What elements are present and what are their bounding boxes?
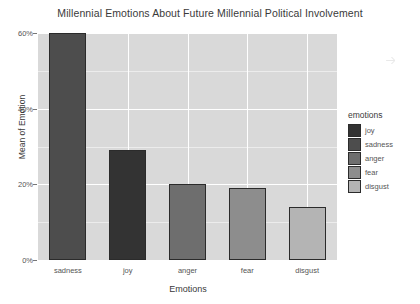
- y-tick-mark: [33, 109, 37, 110]
- legend-item-joy[interactable]: joy: [348, 123, 393, 137]
- bar-joy[interactable]: [109, 150, 146, 260]
- legend-label: anger: [365, 154, 384, 163]
- legend-item-disgust[interactable]: disgust: [348, 179, 393, 193]
- legend-title: emotions: [348, 110, 393, 120]
- bar-disgust[interactable]: [289, 207, 326, 260]
- legend-label: joy: [365, 126, 375, 135]
- legend-label: sadness: [365, 140, 393, 149]
- legend: emotions joysadnessangerfeardisgust: [348, 110, 393, 193]
- x-tick-label-joy: joy: [123, 266, 133, 275]
- legend-swatch-joy: [348, 124, 361, 137]
- legend-swatch-anger: [348, 152, 361, 165]
- bar-fear[interactable]: [229, 188, 266, 260]
- legend-item-sadness[interactable]: sadness: [348, 137, 393, 151]
- x-tick-label-disgust: disgust: [295, 266, 319, 275]
- x-tick-label-sadness: sadness: [54, 266, 82, 275]
- legend-swatch-disgust: [348, 180, 361, 193]
- y-tick-label: 0%: [5, 256, 33, 265]
- x-tick-label-fear: fear: [241, 266, 254, 275]
- bar-anger[interactable]: [169, 184, 206, 260]
- corner-mark-icon: [386, 57, 395, 64]
- x-axis-title: Emotions: [38, 284, 338, 294]
- legend-label: fear: [365, 168, 378, 177]
- legend-item-fear[interactable]: fear: [348, 165, 393, 179]
- y-tick-label: 40%: [5, 104, 33, 113]
- bar-chart: Millennial Emotions About Future Millenn…: [0, 0, 420, 304]
- legend-item-anger[interactable]: anger: [348, 151, 393, 165]
- chart-title: Millennial Emotions About Future Millenn…: [0, 7, 420, 19]
- y-tick-mark: [33, 184, 37, 185]
- y-tick-label: 60%: [5, 29, 33, 38]
- legend-swatch-sadness: [348, 138, 361, 151]
- y-axis-ticks: 0%20%40%60%: [0, 33, 33, 260]
- x-tick-label-anger: anger: [178, 266, 197, 275]
- legend-swatch-fear: [348, 166, 361, 179]
- plot-panel: [38, 33, 337, 260]
- bar-sadness[interactable]: [49, 33, 86, 260]
- y-tick-label: 20%: [5, 180, 33, 189]
- y-tick-mark: [33, 33, 37, 34]
- legend-items: joysadnessangerfeardisgust: [348, 123, 393, 193]
- legend-label: disgust: [365, 182, 389, 191]
- y-tick-mark: [33, 260, 37, 261]
